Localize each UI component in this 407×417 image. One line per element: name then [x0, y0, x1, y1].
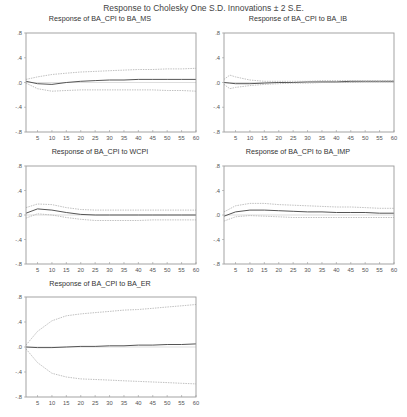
upper-band-line	[224, 75, 394, 81]
panel-imp: Response of BA_CPI to BA_IMP .8.4.0-.4-.…	[198, 147, 398, 277]
y-tick-label: -.4	[15, 369, 23, 375]
irf-plot-wcpi: .8.4.0-.4-.851015202530354045505560	[0, 147, 200, 277]
x-tick-label: 60	[193, 400, 199, 406]
upper-band-line	[26, 68, 196, 79]
y-tick-label: .0	[17, 344, 22, 350]
x-tick-label: 5	[234, 267, 237, 273]
x-tick-label: 40	[135, 135, 141, 141]
x-tick-label: 5	[36, 135, 39, 141]
x-tick-label: 5	[36, 400, 39, 406]
x-tick-label: 10	[247, 267, 253, 273]
y-tick-label: .0	[17, 212, 22, 218]
y-tick-label: -.8	[15, 394, 22, 400]
y-tick-label: .4	[215, 188, 221, 194]
y-tick-label: -.8	[15, 261, 22, 267]
x-tick-label: 25	[92, 135, 98, 141]
x-tick-label: 50	[362, 267, 368, 273]
x-tick-label: 25	[290, 267, 296, 273]
y-tick-label: -.4	[213, 237, 221, 243]
x-tick-label: 50	[164, 400, 170, 406]
y-tick-label: .0	[215, 80, 220, 86]
y-tick-label: .4	[215, 55, 221, 61]
x-tick-label: 40	[333, 267, 339, 273]
lower-band-line	[224, 82, 394, 89]
x-tick-label: 45	[348, 267, 354, 273]
x-tick-label: 50	[164, 135, 170, 141]
x-tick-label: 30	[106, 135, 112, 141]
upper-band-line	[26, 204, 196, 210]
x-tick-label: 30	[304, 135, 310, 141]
x-tick-label: 45	[150, 267, 156, 273]
x-tick-label: 25	[92, 267, 98, 273]
y-tick-label: .8	[215, 163, 220, 169]
x-tick-label: 10	[49, 400, 55, 406]
x-tick-label: 30	[106, 267, 112, 273]
x-tick-label: 15	[63, 135, 69, 141]
x-tick-label: 35	[319, 267, 325, 273]
y-tick-label: .4	[17, 188, 23, 194]
y-tick-label: -.8	[213, 261, 220, 267]
panel-wcpi: Response of BA_CPI to WCPI .8.4.0-.4-.85…	[0, 147, 200, 277]
x-tick-label: 45	[150, 400, 156, 406]
y-tick-label: .8	[215, 30, 220, 36]
y-tick-label: .4	[17, 319, 23, 325]
x-tick-label: 15	[261, 267, 267, 273]
x-tick-label: 35	[121, 400, 127, 406]
irf-plot-ms: .8.4.0-.4-.851015202530354045505560	[0, 14, 200, 144]
x-tick-label: 20	[276, 135, 282, 141]
panel-er: Response of BA_CPI to BA_ER .8.4.0-.4-.8…	[0, 279, 200, 409]
x-tick-label: 60	[391, 267, 397, 273]
x-tick-label: 15	[63, 400, 69, 406]
x-tick-label: 25	[290, 135, 296, 141]
x-tick-label: 50	[362, 135, 368, 141]
x-tick-label: 15	[261, 135, 267, 141]
y-tick-label: .8	[17, 30, 22, 36]
x-tick-label: 30	[106, 400, 112, 406]
y-tick-label: -.8	[213, 129, 220, 135]
x-tick-label: 10	[49, 135, 55, 141]
x-tick-label: 40	[135, 400, 141, 406]
irf-plot-imp: .8.4.0-.4-.851015202530354045505560	[198, 147, 398, 277]
panel-ib: Response of BA_CPI to BA_IB .8.4.0-.4-.8…	[198, 14, 398, 144]
x-tick-label: 15	[63, 267, 69, 273]
x-tick-label: 55	[376, 267, 382, 273]
lower-band-line	[26, 349, 196, 384]
x-tick-label: 35	[121, 135, 127, 141]
x-tick-label: 45	[348, 135, 354, 141]
x-tick-label: 30	[304, 267, 310, 273]
irf-plot-er: .8.4.0-.4-.851015202530354045505560	[0, 279, 200, 414]
x-tick-label: 55	[178, 267, 184, 273]
irf-plot-ib: .8.4.0-.4-.851015202530354045505560	[198, 14, 398, 144]
y-tick-label: .4	[17, 55, 23, 61]
y-tick-label: .8	[17, 294, 22, 300]
x-tick-label: 10	[247, 135, 253, 141]
y-tick-label: .0	[215, 212, 220, 218]
y-tick-label: -.8	[15, 129, 22, 135]
x-tick-label: 40	[135, 267, 141, 273]
x-tick-label: 25	[92, 400, 98, 406]
x-tick-label: 55	[178, 400, 184, 406]
y-tick-label: .8	[17, 163, 22, 169]
x-tick-label: 50	[164, 267, 170, 273]
y-tick-label: -.4	[15, 237, 23, 243]
figure-title: Response to Cholesky One S.D. Innovation…	[0, 3, 407, 13]
panel-ms: Response of BA_CPI to BA_MS .8.4.0-.4-.8…	[0, 14, 200, 144]
x-tick-label: 20	[78, 267, 84, 273]
x-tick-label: 20	[78, 135, 84, 141]
y-tick-label: .0	[17, 80, 22, 86]
response-line	[26, 79, 196, 84]
y-tick-label: -.4	[15, 104, 23, 110]
x-tick-label: 55	[178, 135, 184, 141]
x-tick-label: 10	[49, 267, 55, 273]
x-tick-label: 5	[234, 135, 237, 141]
x-tick-label: 35	[121, 267, 127, 273]
x-tick-label: 45	[150, 135, 156, 141]
x-tick-label: 20	[78, 400, 84, 406]
x-tick-label: 20	[276, 267, 282, 273]
x-tick-label: 5	[36, 267, 39, 273]
upper-band-line	[26, 305, 196, 346]
x-tick-label: 35	[319, 135, 325, 141]
x-tick-label: 55	[376, 135, 382, 141]
y-tick-label: -.4	[213, 104, 221, 110]
x-tick-label: 60	[391, 135, 397, 141]
